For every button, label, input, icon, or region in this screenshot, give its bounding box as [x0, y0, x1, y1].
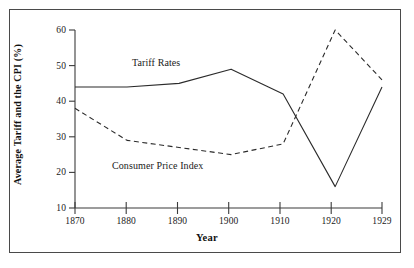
x-tick-label-1900: 1900	[209, 216, 249, 226]
y-tick-label-60: 60	[44, 25, 66, 35]
x-tick-label-1910: 1910	[260, 216, 300, 226]
x-axis-title: Year	[0, 232, 414, 243]
y-tick-label-20: 20	[44, 167, 66, 177]
x-tick-label-1880: 1880	[106, 216, 146, 226]
y-tick-label-30: 30	[44, 132, 66, 142]
y-tick-label-50: 50	[44, 61, 66, 71]
series-line-consumer-price-index	[75, 30, 382, 155]
series-annotation-consumer-price-index: Consumer Price Index	[112, 160, 203, 171]
x-tick-label-1870: 1870	[55, 216, 95, 226]
y-axis-title: Average Tariff and the CPI (%)	[12, 35, 23, 195]
y-tick-label-10: 10	[44, 203, 66, 213]
x-tick-label-1890: 1890	[158, 216, 198, 226]
x-tick-label-1920: 1920	[311, 216, 351, 226]
series-annotation-tariff-rates: Tariff Rates	[132, 57, 180, 68]
figure-container: 10 20 30 40 50 60 1870 1880 1890 1900 19…	[0, 0, 414, 268]
y-tick-label-40: 40	[44, 96, 66, 106]
x-tick-label-1929: 1929	[362, 216, 402, 226]
